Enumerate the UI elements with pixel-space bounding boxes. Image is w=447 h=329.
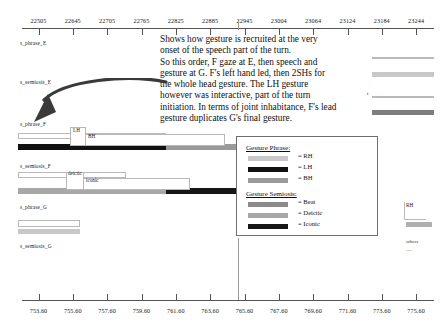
axis-tick — [279, 294, 280, 300]
axis-tick-label: 775.60 — [407, 307, 425, 314]
axis-tick — [245, 294, 246, 300]
legend-swatch-lh — [248, 167, 288, 172]
track-bar-right-e-phrase[interactable] — [372, 57, 434, 59]
others-dots: ..... — [406, 247, 412, 252]
axis-tick-label: 23184 — [374, 17, 390, 24]
legend-swatch-iconic — [248, 224, 288, 229]
bottom-axis-line — [22, 300, 434, 301]
axis-tick-label: 761.60 — [167, 307, 185, 314]
curved-arrow-icon — [18, 78, 168, 140]
legend-swatch-beat — [248, 202, 288, 207]
axis-tick — [416, 294, 417, 300]
legend-label-rh: = RH — [298, 152, 313, 159]
axis-tick — [382, 294, 383, 300]
axis-tick — [416, 29, 417, 35]
axis-tick — [73, 294, 74, 300]
axis-tick-label: 755.60 — [64, 307, 82, 314]
axis-tick-label: 765.60 — [236, 307, 254, 314]
axis-tick — [142, 29, 143, 35]
axis-tick-label: 767.60 — [270, 307, 288, 314]
axis-tick — [142, 294, 143, 300]
axis-tick — [313, 294, 314, 300]
legend-title-gesture-phrase: Gesture Phrase: — [246, 144, 290, 152]
axis-tick-label: 22705 — [99, 17, 115, 24]
legend-swatch-rh — [248, 156, 288, 161]
track-bar-phrase-g-outline[interactable] — [18, 220, 80, 227]
axis-tick — [39, 294, 40, 300]
axis-tick-label: 22825 — [168, 17, 184, 24]
others-tag: others — [406, 239, 418, 244]
playhead-cursor-line[interactable] — [238, 20, 239, 30]
row-label-s-phrase-e: s_phrase_E — [20, 40, 46, 46]
t-tag: t — [367, 91, 368, 96]
row-label-s-semiosis-f: s_semiosis_F — [20, 163, 51, 169]
axis-tick-label: 23244 — [408, 17, 424, 24]
narrative-text: Shows how gesture is recruited at the ve… — [160, 34, 375, 124]
callout-box-iconic — [84, 178, 190, 190]
axis-tick-label: 759.60 — [133, 307, 151, 314]
track-bar-right-f-semiosis[interactable] — [372, 110, 434, 115]
annotation-timeline-canvas: 2250522645227052276522825228852294523004… — [0, 0, 447, 329]
axis-tick-label: 23124 — [340, 17, 356, 24]
axis-tick-label: 753.60 — [30, 307, 48, 314]
playhead-cursor-line-lower[interactable] — [238, 238, 239, 300]
axis-tick-label: 23064 — [305, 17, 321, 24]
axis-tick-label: 771.60 — [339, 307, 357, 314]
axis-tick — [382, 29, 383, 35]
axis-tick — [107, 29, 108, 35]
callout-label-rh: RH — [406, 202, 413, 208]
axis-tick-label: 769.60 — [304, 307, 322, 314]
axis-tick-label: 22885 — [202, 17, 218, 24]
legend-swatch-bh — [248, 178, 288, 183]
axis-tick — [210, 294, 211, 300]
axis-tick-label: 22645 — [65, 17, 81, 24]
legend-label-iconic: = Iconic — [298, 220, 320, 227]
axis-tick-label: 22505 — [31, 17, 47, 24]
legend-label-deictic: = Deictic — [298, 209, 322, 216]
axis-tick — [176, 294, 177, 300]
top-axis-line — [22, 28, 434, 29]
row-label-s-phrase-g: s_phrase_G — [20, 204, 47, 210]
track-bar-phrase-g-fill[interactable] — [18, 229, 80, 234]
axis-tick — [348, 294, 349, 300]
axis-tick — [39, 29, 40, 35]
callout-label-deictic: deictic — [68, 170, 82, 176]
axis-tick-label: 23004 — [271, 17, 287, 24]
legend-label-lh: = LH — [298, 163, 312, 170]
axis-tick-label: 757.60 — [98, 307, 116, 314]
axis-tick-label: 763.60 — [201, 307, 219, 314]
legend-title-gesture-semiosis: Gesture Semiosis: — [246, 190, 297, 198]
track-bar-right-f-phrase[interactable] — [372, 96, 434, 98]
track-bar-right-e-semiosis[interactable] — [372, 72, 434, 77]
axis-tick — [73, 29, 74, 35]
axis-tick-label: 22765 — [134, 17, 150, 24]
axis-tick-label: 773.60 — [373, 307, 391, 314]
axis-tick — [107, 294, 108, 300]
track-bar-right-g-phrase[interactable] — [406, 222, 432, 227]
legend-label-bh: = BH — [298, 174, 313, 181]
legend-label-beat: = Beat — [298, 198, 315, 205]
row-label-s-semiosis-g: s_semiosis_G — [20, 243, 52, 249]
legend-swatch-deictic — [248, 213, 288, 218]
callout-label-iconic: iconic — [86, 177, 99, 183]
